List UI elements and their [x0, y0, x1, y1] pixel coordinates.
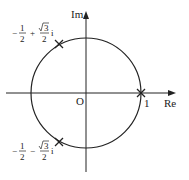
- imaginary-axis-label: Im: [71, 8, 84, 20]
- imaginary-axis-arrow-icon: [83, 11, 89, 19]
- frac-den-2: 2: [42, 34, 47, 44]
- imag-unit: i: [51, 146, 54, 156]
- minus-op: −: [30, 146, 35, 156]
- sqrt-num: 3: [44, 141, 49, 151]
- real-axis-label: Re: [164, 97, 176, 109]
- point-1-label: 1: [144, 97, 150, 109]
- frac-num: 1: [20, 141, 25, 151]
- frac-den-2: 2: [42, 152, 47, 162]
- origin-label: O: [76, 95, 84, 107]
- sqrt-num: 3: [44, 23, 49, 33]
- minus-sign: −: [12, 28, 17, 38]
- minus-sign: −: [12, 146, 17, 156]
- complex-plane-diagram: Im Re O 1 − 1 2 + 3 2 i − 1 2 − 3 2 i: [0, 0, 189, 180]
- frac-num: 1: [20, 23, 25, 33]
- point-upper-label: − 1 2 + 3 2 i: [12, 23, 54, 44]
- point-lower-label: − 1 2 − 3 2 i: [12, 141, 54, 162]
- imag-unit: i: [51, 28, 54, 38]
- frac-den: 2: [20, 152, 25, 162]
- real-axis-arrow-icon: [168, 90, 176, 96]
- frac-den: 2: [20, 34, 25, 44]
- plus-sign: +: [30, 28, 35, 38]
